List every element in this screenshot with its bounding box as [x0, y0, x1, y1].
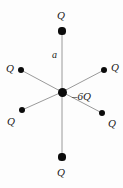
- spoke-upper-left: [21, 70, 62, 92]
- charge-label-top: Q: [57, 10, 65, 21]
- charge-label-bottom: Q: [57, 167, 65, 178]
- spoke-upper-right: [62, 70, 104, 92]
- charge-label-lower-left: Q: [7, 116, 15, 127]
- charge-configuration-diagram: Q Q Q Q Q Q –6Q a: [0, 0, 123, 188]
- charge-dot-center: [58, 88, 67, 97]
- charge-dot-bottom: [58, 153, 65, 160]
- charge-label-lower-right: Q: [108, 118, 116, 129]
- charge-dot-top: [58, 27, 65, 34]
- charge-label-upper-right: Q: [111, 62, 119, 73]
- charge-label-upper-left: Q: [6, 63, 14, 74]
- spoke-lower-left: [22, 92, 62, 110]
- charge-label-center: –6Q: [72, 91, 91, 102]
- distance-label-a: a: [52, 50, 57, 60]
